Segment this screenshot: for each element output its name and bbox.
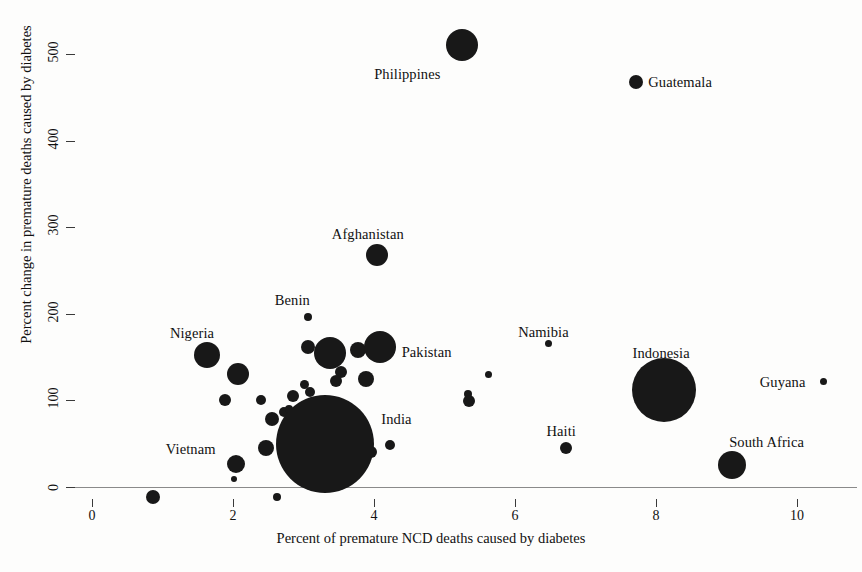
y-axis-tick (66, 227, 75, 228)
point-label-nigeria: Nigeria (170, 326, 214, 341)
x-axis-tick (374, 499, 375, 507)
x-axis-tick (92, 499, 93, 507)
y-axis-tick (66, 54, 75, 55)
data-bubble (485, 371, 492, 378)
x-axis-tick-label: 4 (371, 508, 378, 524)
point-label-haiti: Haiti (546, 424, 576, 439)
data-bubble (287, 390, 299, 402)
x-axis-line (73, 487, 857, 488)
y-axis-tick-label: 400 (0, 128, 62, 153)
y-axis-tick (66, 487, 75, 488)
data-bubble-guatemala (629, 75, 643, 89)
point-label-guatemala: Guatemala (648, 75, 712, 90)
y-axis-tick (66, 314, 75, 315)
point-label-afghanistan: Afghanistan (332, 227, 404, 242)
point-label-pakistan: Pakistan (402, 345, 452, 360)
point-label-indonesia: Indonesia (632, 346, 689, 361)
data-bubble-benin (304, 313, 312, 321)
plot-area (73, 8, 857, 488)
x-axis-tick (233, 499, 234, 507)
data-bubble (146, 490, 160, 504)
data-bubble (227, 363, 249, 385)
x-axis-tick-label: 6 (512, 508, 519, 524)
x-axis-tick-label: 8 (653, 508, 660, 524)
point-label-guyana: Guyana (760, 375, 806, 390)
y-axis-tick (66, 141, 75, 142)
point-label-namibia: Namibia (518, 325, 569, 340)
data-bubble-indonesia (632, 358, 696, 422)
point-label-india: India (381, 412, 411, 427)
data-bubble-namibia (545, 340, 552, 347)
point-label-benin: Benin (275, 293, 310, 308)
x-axis-tick-label: 2 (230, 508, 237, 524)
bubble-chart-figure: Percent of premature NCD deaths caused b… (0, 0, 862, 572)
x-axis-title: Percent of premature NCD deaths caused b… (0, 530, 862, 547)
x-axis-tick (656, 499, 657, 507)
x-axis-tick (797, 499, 798, 507)
point-label-south-africa: South Africa (729, 435, 804, 450)
y-axis-tick-label: 500 (0, 42, 62, 67)
data-bubble (314, 337, 346, 369)
y-axis-tick-label: 200 (0, 301, 62, 326)
data-bubble (219, 394, 231, 406)
point-label-vietnam: Vietnam (166, 442, 216, 457)
data-bubble-afghanistan (366, 244, 388, 266)
data-bubble (273, 493, 281, 501)
x-axis-tick (515, 499, 516, 507)
data-bubble (385, 440, 395, 450)
y-axis-tick-label: 100 (0, 388, 62, 413)
x-axis-tick-label: 0 (89, 508, 96, 524)
y-axis-tick (66, 400, 75, 401)
data-bubble-pakistan (364, 331, 396, 363)
point-label-philippines: Philippines (374, 67, 440, 82)
data-bubble-india (276, 395, 374, 493)
x-axis-tick-label: 10 (790, 508, 804, 524)
y-axis-tick-label: 300 (0, 215, 62, 240)
data-bubble (358, 371, 374, 387)
data-bubble-vietnam (227, 455, 245, 473)
y-axis-tick-label: 0 (0, 479, 62, 495)
